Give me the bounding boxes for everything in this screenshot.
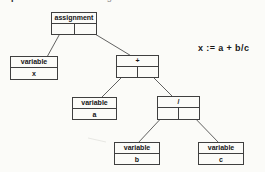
node-slash: / [157, 96, 200, 120]
node-assignment-label: assignment [52, 13, 96, 24]
node-assignment-pointer-cells [52, 24, 96, 35]
clipped-caption-light: the assignment statement shown [71, 0, 211, 2]
node-slash-label: / [158, 97, 199, 108]
node-variable-x-label: variable [11, 57, 57, 68]
node-assignment-right-cell [74, 24, 97, 35]
scan-artifact [88, 138, 106, 142]
node-variable-b-value: b [115, 154, 159, 165]
node-variable-c-label: variable [199, 143, 243, 154]
clipped-caption-fragment: A parse tree for the assignment statemen… [2, 0, 242, 4]
node-variable-a-value: a [73, 109, 116, 120]
node-plus-pointer-cells [117, 67, 158, 78]
node-slash-left-cell [158, 108, 178, 119]
node-variable-b: variable b [114, 142, 160, 165]
node-slash-right-cell [178, 108, 199, 119]
node-assignment: assignment [51, 12, 97, 35]
node-plus-right-cell [137, 67, 158, 78]
clipped-caption-bold: A parse tree for [2, 0, 71, 2]
node-plus: + [116, 55, 159, 78]
node-variable-b-label: variable [115, 143, 159, 154]
node-variable-x: variable x [10, 56, 58, 80]
node-variable-a: variable a [72, 97, 117, 120]
node-variable-x-value: x [11, 68, 57, 79]
node-plus-left-cell [117, 67, 137, 78]
node-slash-pointer-cells [158, 108, 199, 119]
node-plus-label: + [117, 56, 158, 67]
node-variable-c-value: c [199, 154, 243, 165]
node-assignment-left-cell [52, 24, 74, 35]
node-variable-a-label: variable [73, 98, 116, 109]
node-variable-c: variable c [198, 142, 244, 165]
expression-text: x := a + b/c [198, 43, 249, 53]
parse-tree-figure: A parse tree for the assignment statemen… [0, 0, 265, 172]
